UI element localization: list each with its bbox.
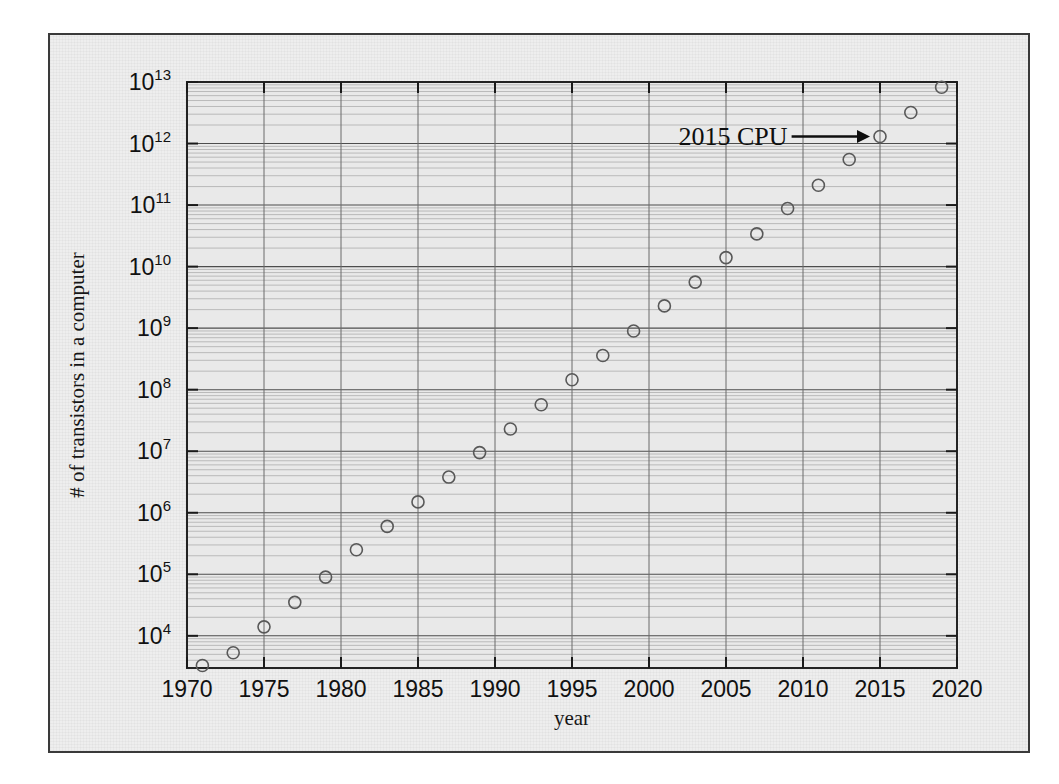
y-tick-label: 105	[137, 558, 171, 587]
y-tick-label: 1013	[129, 66, 171, 95]
figure-frame: 1041051061071081091010101110121013 19701…	[48, 33, 1030, 753]
x-tick-label: 1980	[315, 676, 366, 702]
x-tick-label: 1990	[469, 676, 520, 702]
x-tick-label: 1985	[392, 676, 443, 702]
x-tick-label: 2000	[623, 676, 674, 702]
x-tick-label: 1970	[161, 676, 212, 702]
y-tick-label: 108	[137, 374, 171, 403]
annotation-label: 2015 CPU	[679, 122, 788, 151]
y-axis-tick-labels: 1041051061071081091010101110121013	[129, 66, 171, 649]
y-axis-title: # of transistors in a computer	[65, 252, 89, 498]
y-tick-label: 106	[137, 497, 171, 526]
y-tick-label: 1012	[129, 128, 171, 157]
x-tick-label: 2010	[777, 676, 828, 702]
y-tick-label: 1011	[130, 189, 171, 218]
x-tick-label: 1995	[546, 676, 597, 702]
transistor-count-scatter-chart: 1041051061071081091010101110121013 19701…	[50, 35, 1028, 751]
x-tick-label: 2020	[931, 676, 982, 702]
y-tick-label: 107	[137, 435, 171, 464]
x-axis-tick-labels: 1970197519801985199019952000200520102015…	[161, 676, 982, 702]
x-tick-label: 1975	[238, 676, 289, 702]
chart-page: 1041051061071081091010101110121013 19701…	[0, 0, 1059, 784]
y-tick-label: 109	[137, 312, 171, 341]
x-tick-label: 2005	[700, 676, 751, 702]
x-tick-label: 2015	[854, 676, 905, 702]
x-axis-title: year	[554, 706, 590, 730]
y-tick-label: 1010	[129, 251, 171, 280]
y-tick-label: 104	[137, 620, 171, 649]
